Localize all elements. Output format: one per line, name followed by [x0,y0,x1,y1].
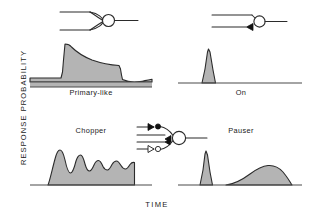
panel-label-pauser: Pauser [196,126,286,135]
trace-on [178,40,302,88]
y-axis-label: RESPONSE PROBABILITY [19,43,28,173]
panel-label-chopper: Chopper [36,126,146,135]
trace-primary-like [30,36,152,88]
panel-label-on: On [196,88,286,97]
trace-pauser [178,142,302,190]
cell-diagram-on [212,8,287,36]
cell-diagram-primary-like [60,6,138,36]
response-pattern-figure: RESPONSE PROBABILITY Primary-like [0,0,314,219]
x-axis-label: TIME [0,200,314,209]
trace-chopper [30,140,152,190]
panel-label-primary-like: Primary-like [36,88,146,97]
